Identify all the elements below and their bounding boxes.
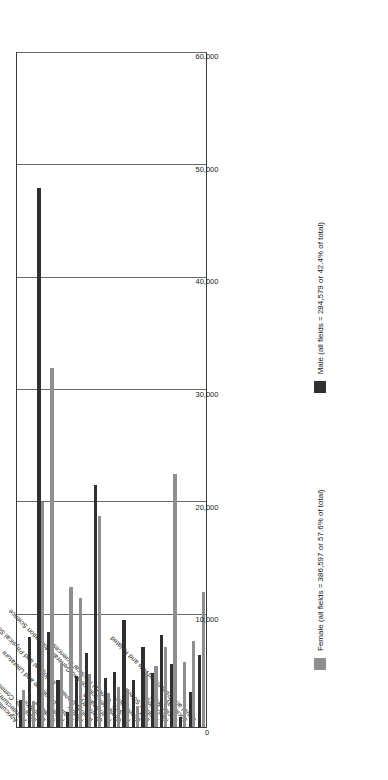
chart-canvas: Agriculture and RelatedArchitecture, Eng… bbox=[0, 0, 388, 780]
value-tick-label: 0 bbox=[172, 728, 242, 737]
bar-female bbox=[117, 687, 120, 727]
legend-swatch-female-icon bbox=[314, 658, 326, 670]
bar-female bbox=[173, 474, 176, 727]
legend-label-male: Male (all fields = 284,579 or 42.4% of t… bbox=[316, 222, 325, 374]
value-tick-label: 30,000 bbox=[172, 390, 242, 399]
value-tick-label: 60,000 bbox=[172, 52, 242, 61]
bar-female bbox=[164, 647, 167, 727]
bar-female bbox=[69, 587, 72, 727]
bar-female bbox=[136, 706, 139, 727]
value-tick-label: 50,000 bbox=[172, 165, 242, 174]
bar-female bbox=[88, 674, 91, 727]
bar-female bbox=[107, 693, 110, 727]
bar-female bbox=[60, 663, 63, 727]
value-tick-label: 40,000 bbox=[172, 277, 242, 286]
bar-female bbox=[79, 598, 82, 727]
value-tick-label: 20,000 bbox=[172, 503, 242, 512]
bar-female bbox=[98, 516, 101, 727]
value-axis: 010,00020,00030,00040,00050,00060,000 bbox=[207, 52, 267, 728]
legend-item-male: Male (all fields = 284,579 or 42.4% of t… bbox=[314, 222, 326, 393]
value-tick-label: 10,000 bbox=[172, 615, 242, 624]
bar-female bbox=[50, 368, 53, 727]
bar-female bbox=[22, 690, 25, 727]
bar-female bbox=[202, 592, 205, 727]
chart-legend: Female (all fields = 386,597 or 57.6% of… bbox=[300, 110, 340, 670]
bar-female bbox=[32, 701, 35, 727]
legend-item-female: Female (all fields = 386,597 or 57.6% of… bbox=[314, 489, 326, 670]
legend-label-female: Female (all fields = 386,597 or 57.6% of… bbox=[316, 489, 325, 651]
bar-female bbox=[41, 502, 44, 727]
bar-female bbox=[126, 689, 129, 727]
legend-swatch-male-icon bbox=[314, 381, 326, 393]
bar-female bbox=[183, 662, 186, 727]
bar-female bbox=[154, 666, 157, 727]
bar-female bbox=[192, 641, 195, 727]
bar-female bbox=[145, 672, 148, 727]
